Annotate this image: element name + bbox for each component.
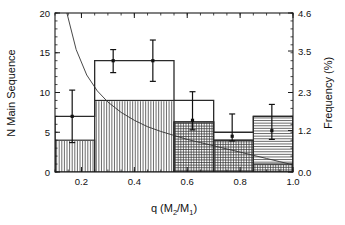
x-axis-title-part-mid: /M — [177, 202, 189, 214]
y-left-tick-label-0: 0 — [45, 167, 50, 178]
x-tick-label-2: 0.6 — [181, 176, 194, 187]
y-left-axis-title: N Main Sequence — [5, 49, 17, 136]
y-right-tick-label-4: 4.6 — [298, 8, 311, 19]
y-left-tick-label-1: 5 — [45, 127, 50, 138]
x-axis-title-part-end: ) — [193, 202, 197, 214]
error-bar-point-5 — [270, 129, 273, 132]
histogram-chart: 0.20.40.60.81.0051015200.01.22.33.54.6 N… — [0, 0, 345, 225]
y-right-tick-label-0: 0.0 — [298, 167, 311, 178]
x-tick-label-3: 0.8 — [234, 176, 247, 187]
y-right-axis-title: Frequency (%) — [322, 57, 334, 129]
x-tick-label-4: 1.0 — [286, 176, 299, 187]
x-tick-label-0: 0.2 — [75, 176, 88, 187]
y-left-tick-label-4: 20 — [39, 8, 50, 19]
error-bar-point-2 — [151, 59, 154, 62]
y-right-tick-label-2: 2.3 — [298, 87, 311, 98]
y-left-tick-label-3: 15 — [39, 47, 50, 58]
figure-container: 0.20.40.60.81.0051015200.01.22.33.54.6 N… — [0, 0, 345, 225]
x-axis-title-part-main: q (M — [151, 202, 173, 214]
y-left-tick-label-2: 10 — [39, 87, 50, 98]
error-bar-point-1 — [112, 59, 115, 62]
error-bar-point-0 — [71, 115, 74, 118]
y-right-tick-label-1: 1.2 — [298, 125, 311, 136]
error-bar-point-4 — [231, 135, 234, 138]
error-bar-point-3 — [191, 119, 194, 122]
x-tick-label-1: 0.4 — [128, 176, 141, 187]
y-right-tick-label-3: 3.5 — [298, 46, 311, 57]
